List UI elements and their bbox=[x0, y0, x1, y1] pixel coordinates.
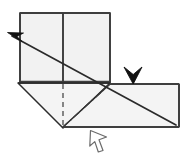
origami-diagram-canvas bbox=[0, 0, 190, 154]
pointer-arrow-bottom-head bbox=[90, 131, 107, 153]
origami-diagram-figure bbox=[0, 0, 190, 154]
push-down-arrow-top-right bbox=[124, 67, 142, 84]
pointer-arrow-bottom bbox=[90, 131, 107, 153]
push-down-arrow-top-right-head bbox=[124, 67, 142, 84]
paper-panels bbox=[18, 13, 179, 128]
